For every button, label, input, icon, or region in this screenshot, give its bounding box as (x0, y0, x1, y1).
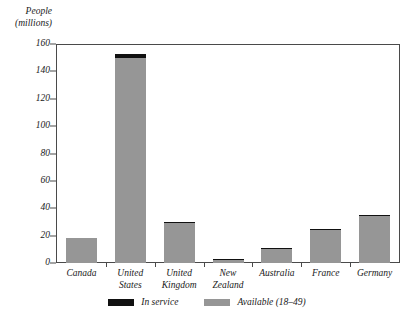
bar-in-service (310, 229, 341, 230)
bar-available (115, 54, 146, 263)
x-axis-category-label-line: Canada (57, 268, 106, 280)
y-axis-title-line-2: (millions) (0, 18, 52, 30)
x-axis-category-label: UnitedStates (106, 268, 155, 291)
y-axis-tick-label: 60 (6, 176, 50, 186)
y-axis-tick-label: 20 (6, 231, 50, 241)
bar-group (66, 45, 97, 263)
y-axis-tick-mark (50, 263, 56, 264)
x-axis-tick-mark (252, 263, 253, 267)
bar-in-service (164, 222, 195, 223)
y-axis-tick-label: 100 (6, 121, 50, 131)
bar-available (66, 238, 97, 263)
x-axis-category-label: NewZealand (204, 268, 253, 291)
y-axis-tick-mark (50, 180, 56, 181)
y-axis-tick-mark (50, 44, 56, 45)
y-axis-tick-mark (50, 98, 56, 99)
bar-available (261, 248, 292, 263)
x-axis-category-label-line: States (106, 280, 155, 292)
x-axis-category-label-line: Zealand (204, 280, 253, 292)
bar-in-service (261, 248, 292, 249)
legend-swatch (204, 299, 230, 306)
legend-item: In service (108, 297, 178, 307)
bar-group (213, 45, 244, 263)
y-axis-tick-label: 140 (6, 67, 50, 77)
legend-swatch (108, 299, 134, 306)
x-axis-tick-mark (350, 263, 351, 267)
y-axis-tick-label: 160 (6, 39, 50, 49)
y-axis-tick-label: 80 (6, 149, 50, 159)
bar-group (359, 45, 390, 263)
bar-group (164, 45, 195, 263)
x-axis-category-label-line: New (204, 268, 253, 280)
y-axis-tick-label: 40 (6, 204, 50, 214)
bar-available (359, 215, 390, 263)
x-axis-category-label-line: United (155, 268, 204, 280)
chart-legend: In serviceAvailable (18–49) (0, 297, 414, 307)
x-axis-category-label-line: France (301, 268, 350, 280)
bar-group (261, 45, 292, 263)
bar-available (164, 222, 195, 263)
legend-label: In service (141, 297, 178, 307)
bar-in-service (359, 215, 390, 216)
x-axis-tick-mark (106, 263, 107, 267)
bar-group (115, 45, 146, 263)
bar-group (310, 45, 341, 263)
bar-in-service (213, 259, 244, 260)
x-axis-category-label-line: Germany (350, 268, 399, 280)
x-axis-category-label-line: United (106, 268, 155, 280)
x-axis-category-label: Germany (350, 268, 399, 280)
x-axis-category-label-line: Kingdom (155, 280, 204, 292)
bar-chart: People (millions) 020406080100120140160 … (0, 0, 414, 318)
x-axis-tick-mark (301, 263, 302, 267)
y-axis-title: People (millions) (0, 6, 52, 29)
bars-layer (57, 45, 399, 263)
legend-label: Available (18–49) (237, 297, 305, 307)
y-axis-tick-mark (50, 235, 56, 236)
x-axis-tick-mark (204, 263, 205, 267)
x-axis-category-label: Australia (252, 268, 301, 280)
legend-item: Available (18–49) (204, 297, 305, 307)
bar-available (310, 229, 341, 263)
bar-in-service (115, 54, 146, 58)
y-axis-tick-mark (50, 71, 56, 72)
y-axis-tick-mark (50, 208, 56, 209)
x-axis-tick-mark (155, 263, 156, 267)
y-axis-tick-mark (50, 126, 56, 127)
x-axis-category-label: France (301, 268, 350, 280)
y-axis-tick-label: 120 (6, 94, 50, 104)
y-axis-tick-mark (50, 153, 56, 154)
x-axis-category-label: Canada (57, 268, 106, 280)
x-axis-category-label: UnitedKingdom (155, 268, 204, 291)
x-axis-category-label-line: Australia (252, 268, 301, 280)
y-axis-title-line-1: People (0, 6, 52, 18)
y-axis-tick-label: 0 (6, 258, 50, 268)
